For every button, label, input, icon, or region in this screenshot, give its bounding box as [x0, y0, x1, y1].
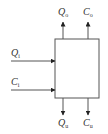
input-label-q: Qi	[11, 47, 20, 59]
output-top-label-q: Qo	[58, 6, 68, 18]
process-block	[55, 39, 99, 98]
output-bottom-label-c: Cu	[83, 117, 93, 129]
input-label-c: Ci	[11, 76, 20, 88]
flow-diagram: Qi Ci Qo Co Qu Cu	[0, 0, 108, 134]
output-bottom-label-q: Qu	[58, 117, 68, 129]
output-top-label-c: Co	[83, 6, 93, 18]
